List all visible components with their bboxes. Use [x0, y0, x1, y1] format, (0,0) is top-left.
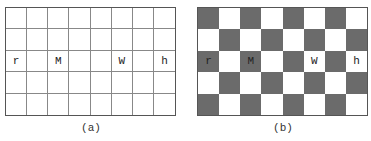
grid-cell	[261, 94, 282, 115]
grid-cell	[112, 72, 133, 93]
grid-cell	[240, 72, 261, 93]
grid-cell	[154, 29, 175, 50]
grid-cell: h	[346, 51, 367, 72]
grid-cell	[198, 72, 219, 93]
cell-letter: M	[248, 55, 255, 67]
grid-cell	[346, 29, 367, 50]
grid-cell	[69, 51, 90, 72]
grid-cell	[48, 8, 69, 29]
grid-cell	[198, 29, 219, 50]
grid-b-checkerboard: rMWh	[197, 7, 368, 116]
grid-cell	[240, 29, 261, 50]
grid-cell	[6, 8, 27, 29]
grid-cell	[27, 29, 48, 50]
grid-cell	[261, 29, 282, 50]
grid-cell	[154, 8, 175, 29]
grid-cell	[219, 94, 240, 115]
grid-cell	[219, 8, 240, 29]
grid-cell	[6, 94, 27, 115]
grid-cell	[325, 94, 346, 115]
grid-cell: W	[304, 51, 325, 72]
grid-cell	[69, 94, 90, 115]
cell-letter: r	[13, 55, 20, 67]
grid-cell	[112, 29, 133, 50]
grid-cell	[154, 72, 175, 93]
grid-cell	[240, 8, 261, 29]
grid-cell	[91, 94, 112, 115]
grid-cell: M	[48, 51, 69, 72]
grid-cell	[198, 94, 219, 115]
grid-cell	[27, 51, 48, 72]
grid-cell	[346, 8, 367, 29]
cell-letter: r	[205, 55, 212, 67]
grid-cell	[283, 8, 304, 29]
grid-cell	[6, 29, 27, 50]
grid-cell	[304, 94, 325, 115]
grid-cell	[133, 72, 154, 93]
grid-cell	[261, 8, 282, 29]
cell-letter: h	[161, 55, 168, 67]
grid-cell	[27, 8, 48, 29]
grid-cell: h	[154, 51, 175, 72]
grid-cell	[48, 94, 69, 115]
grid-cell	[133, 94, 154, 115]
grid-cell	[283, 51, 304, 72]
grid-cell	[240, 94, 261, 115]
grid-cell	[91, 8, 112, 29]
grid-cell	[346, 94, 367, 115]
grid-cell	[283, 72, 304, 93]
grid-cell: r	[198, 51, 219, 72]
grid-cell: r	[6, 51, 27, 72]
grid-cell	[261, 51, 282, 72]
caption-a: (a)	[61, 122, 121, 134]
grid-cell	[325, 8, 346, 29]
grid-cell: W	[112, 51, 133, 72]
grid-cell	[304, 8, 325, 29]
grid-cell	[48, 72, 69, 93]
grid-cell	[154, 94, 175, 115]
grid-cell	[133, 51, 154, 72]
grid-cell	[91, 72, 112, 93]
grid-cell	[219, 29, 240, 50]
cell-letter: W	[311, 55, 318, 67]
grid-cell	[91, 29, 112, 50]
grid-cell	[219, 51, 240, 72]
grid-cell	[325, 51, 346, 72]
grid-cell	[27, 72, 48, 93]
grid-cell	[27, 94, 48, 115]
grid-cell	[91, 51, 112, 72]
grid-cell	[198, 8, 219, 29]
grid-cell	[69, 8, 90, 29]
grid-cell	[6, 72, 27, 93]
cell-letter: h	[353, 55, 360, 67]
grid-cell	[48, 29, 69, 50]
grid-cell	[283, 94, 304, 115]
grid-a-plain: rMWh	[5, 7, 176, 116]
grid-cell	[304, 72, 325, 93]
grid-cell	[304, 29, 325, 50]
grid-cell	[133, 8, 154, 29]
grid-cell	[283, 29, 304, 50]
grid-cell	[346, 72, 367, 93]
grid-cell	[69, 29, 90, 50]
caption-b: (b)	[253, 122, 313, 134]
grid-cell	[112, 8, 133, 29]
grid-cell	[219, 72, 240, 93]
grid-cell	[325, 72, 346, 93]
cell-letter: W	[118, 55, 125, 67]
grid-cell	[261, 72, 282, 93]
cell-letter: M	[55, 55, 62, 67]
grid-cell	[133, 29, 154, 50]
grid-cell	[112, 94, 133, 115]
grid-cell	[69, 72, 90, 93]
grid-cell: M	[240, 51, 261, 72]
grid-cell	[325, 29, 346, 50]
